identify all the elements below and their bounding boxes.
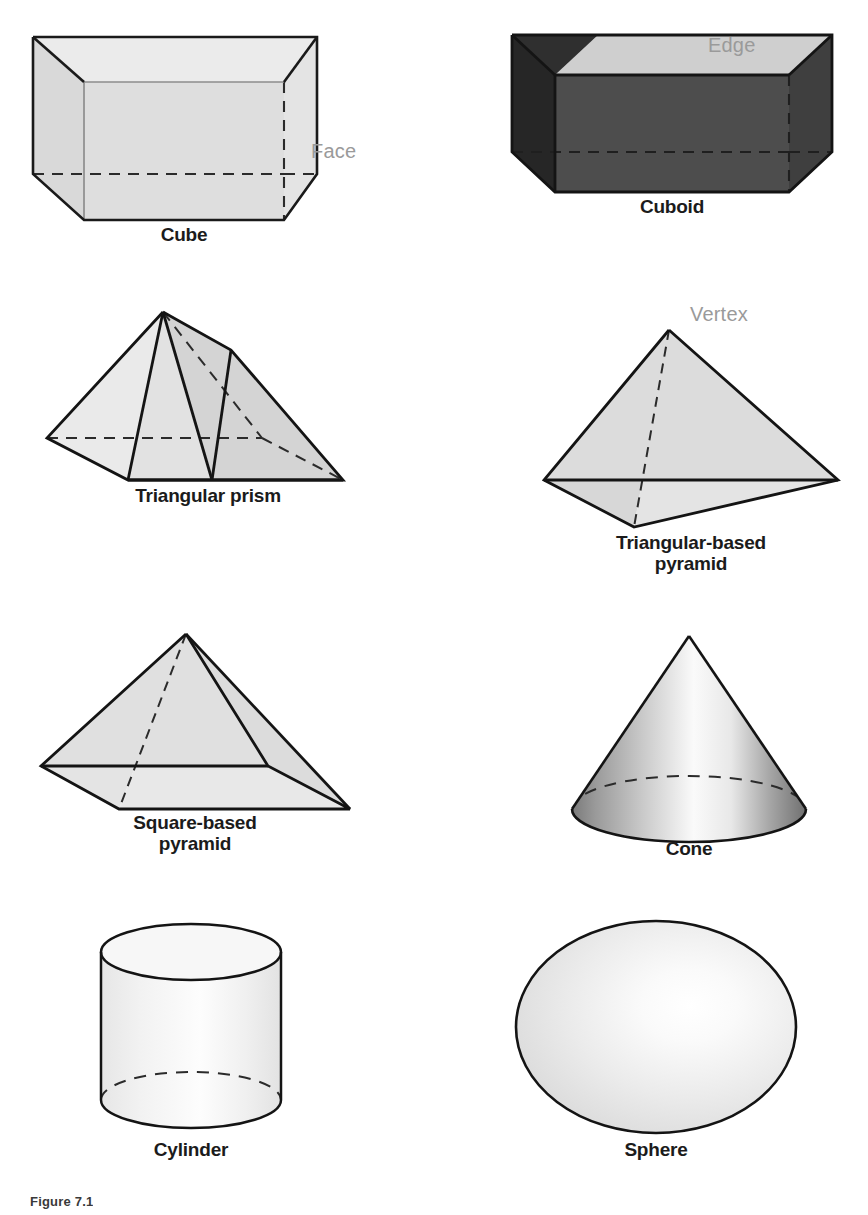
shape-cell-cuboid: Edge Cuboid [434,0,868,280]
cuboid-edge-annotation: Edge [708,34,756,57]
square-based-pyramid-label: Square-based pyramid [45,812,345,855]
figure-caption: Figure 7.1 [30,1194,93,1215]
cone-body [572,636,806,842]
triangular-prism-label: Triangular prism [68,485,348,506]
sphere-drawing [434,896,868,1146]
cuboid-front-face [555,75,789,192]
sphere-label: Sphere [556,1139,756,1160]
cone-drawing [434,594,868,844]
triangular-based-pyramid-label: Triangular-based pyramid [541,532,841,575]
cone-label: Cone [589,838,789,859]
cube-front-face [84,82,284,220]
cube-face-annotation: Face [311,140,356,163]
cylinder-drawing [0,896,434,1146]
cuboid-top-face [555,35,832,75]
tetra-vertex-annotation: Vertex [690,303,748,326]
cube-label: Cube [84,224,284,245]
square-based-pyramid-drawing [0,594,434,824]
cylinder-label: Cylinder [91,1139,291,1160]
shape-cell-sphere: Sphere [434,896,868,1176]
shape-cell-cylinder: Cylinder [0,896,434,1176]
tetra-upper-face [544,330,838,480]
triangular-based-pyramid-drawing [434,282,868,537]
shape-cell-triangular-based-pyramid: Vertex Triangular-based pyramid [434,282,868,592]
shape-cell-triangular-prism: Triangular prism [0,282,434,572]
shape-cell-cube: Face Cube [0,0,434,280]
triangular-prism-drawing [0,282,434,497]
shape-cell-cone: Cone [434,594,868,894]
figure-3d-shapes: Face Cube [0,0,868,1215]
shape-cell-square-based-pyramid: Square-based pyramid [0,594,434,894]
sphere-body [516,921,796,1133]
cube-drawing [0,0,434,250]
cuboid-label: Cuboid [555,196,789,217]
